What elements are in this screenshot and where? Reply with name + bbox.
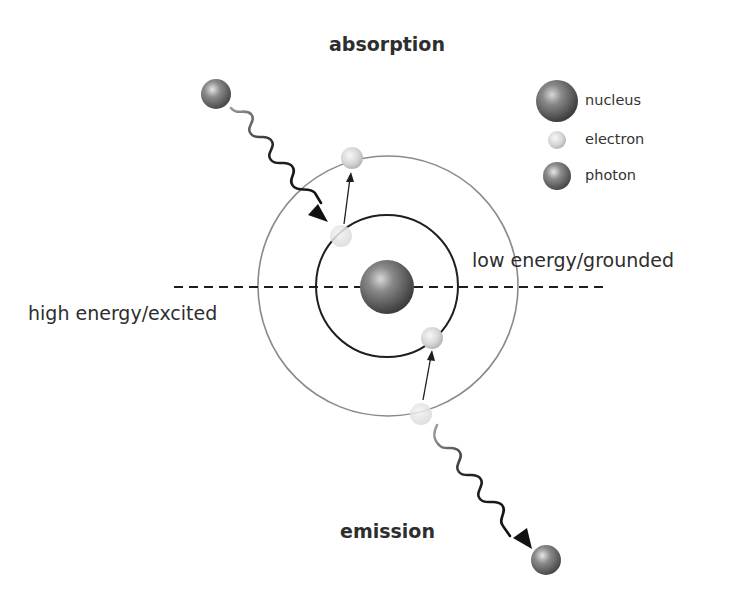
nucleus-sphere (360, 260, 414, 314)
absorption-title: absorption (329, 33, 445, 55)
electron-ground-start (330, 225, 352, 247)
legend-electron-icon (548, 131, 566, 149)
legend-item-photon: photon (585, 167, 636, 183)
legend-label: electron (585, 131, 644, 147)
legend-item-electron: electron (585, 131, 644, 147)
legend-label: photon (585, 167, 636, 183)
legend-photon-icon (543, 162, 571, 190)
absorption-wave (231, 108, 321, 203)
electron-ground (421, 327, 443, 349)
legend-label: nucleus (585, 92, 641, 108)
legend-item-nucleus: nucleus (585, 92, 641, 108)
electron-excited (341, 147, 363, 169)
low-energy-label: low energy/grounded (472, 249, 674, 271)
relaxation-arrow (423, 356, 431, 400)
excitation-arrowhead (346, 172, 354, 182)
emission-photon-sphere (531, 545, 561, 575)
emission-wave (434, 425, 510, 536)
electron-excited-start (410, 403, 432, 425)
emission-arrowhead (513, 528, 532, 549)
emission-title: emission (340, 520, 435, 542)
high-energy-label: high energy/excited (28, 302, 217, 324)
excitation-arrow (344, 178, 350, 224)
legend-nucleus-icon (536, 80, 578, 122)
absorption-photon-sphere (201, 79, 231, 109)
relaxation-arrowhead (427, 350, 435, 361)
absorption-arrowhead (308, 204, 328, 222)
